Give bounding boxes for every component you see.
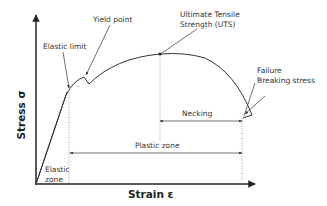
necking-label: Necking <box>182 109 213 118</box>
uts-label-line1: Ultimate Tensile <box>180 10 240 19</box>
failure-label-line1: Failure <box>257 66 282 75</box>
elastic-limit-label: Elastic limit <box>43 42 86 51</box>
yield-point-label: Yield point <box>92 15 132 24</box>
plastic-zone-label: Plastic zone <box>135 141 180 150</box>
y-axis-label: Stress σ <box>15 90 27 139</box>
uts-label-line2: Strength (UTS) <box>180 20 236 29</box>
stress-strain-diagram: Elastic limit Yield point Ultimate Tensi… <box>0 0 327 206</box>
x-axis-label: Strain ε <box>128 188 174 200</box>
elastic-zone-label-line1: Elastic <box>45 165 69 174</box>
elastic-zone-label-line2: zone <box>45 175 63 184</box>
failure-label-line2: Breaking stress <box>257 76 315 85</box>
